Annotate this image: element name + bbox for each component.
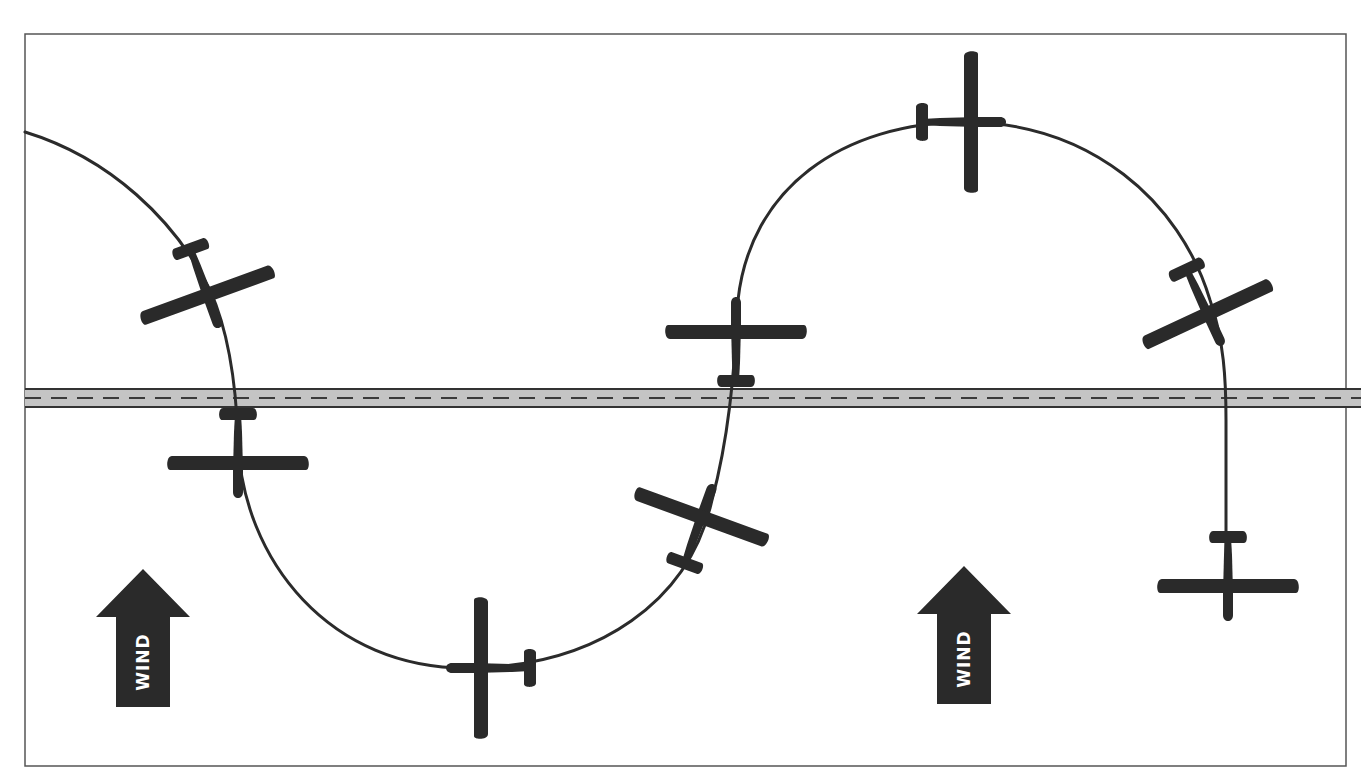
aircraft-icon: [665, 297, 807, 387]
aircraft-icon: [916, 51, 1006, 193]
road: [25, 389, 1361, 407]
diagram-canvas: WINDWIND: [0, 0, 1361, 784]
aircraft-icon: [616, 460, 780, 593]
wind-arrows: WINDWIND: [96, 566, 1011, 707]
wind-arrow-icon: WIND: [917, 566, 1011, 704]
road-surface: [25, 389, 1361, 407]
aircraft-icon: [1157, 531, 1299, 621]
aircraft-icon: [122, 219, 286, 352]
wind-arrow-icon: WIND: [96, 569, 190, 707]
aircraft-icon: [167, 408, 309, 498]
s-turns-diagram: WINDWIND: [0, 0, 1361, 784]
aircraft-icon: [1120, 234, 1286, 375]
wind-label: WIND: [133, 633, 153, 690]
aircraft-icon: [446, 597, 536, 739]
wind-label: WIND: [954, 630, 974, 687]
